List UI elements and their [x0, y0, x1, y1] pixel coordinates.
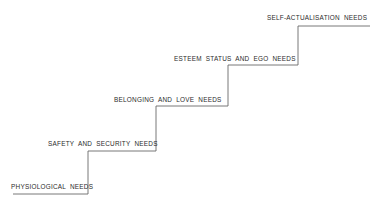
- step-label-belonging: BELONGING AND LOVE NEEDS: [114, 96, 222, 103]
- step-label-physiological: PHYSIOLOGICAL NEEDS: [11, 183, 93, 190]
- step-label-safety: SAFETY AND SECURITY NEEDS: [48, 140, 158, 147]
- step-label-self-actualisation: SELF-ACTUALISATION NEEDS: [267, 14, 367, 21]
- step-label-esteem: ESTEEM STATUS AND EGO NEEDS: [174, 55, 296, 62]
- staircase-line: [13, 26, 370, 194]
- staircase-outline: [0, 0, 381, 208]
